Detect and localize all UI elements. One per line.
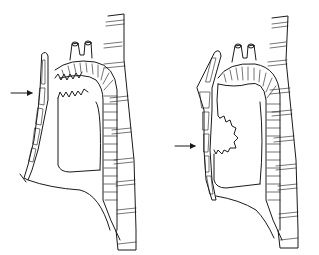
great-vessels [70, 41, 92, 60]
great-vessels [232, 44, 256, 62]
pericardium [28, 102, 110, 230]
lesion-outline [214, 84, 260, 188]
sternum [20, 52, 48, 182]
aorta [55, 61, 120, 240]
pericardium [216, 102, 274, 238]
illustration-panel-right [160, 0, 319, 255]
illustration-panel-left [0, 0, 160, 255]
trachea [268, 16, 298, 248]
anatomy-drawing-left [0, 0, 160, 255]
anatomy-drawing-right [160, 0, 319, 255]
arrow-icon [11, 90, 33, 96]
lesion-outline [55, 72, 100, 172]
arrow-icon [175, 143, 196, 149]
sternum [197, 51, 221, 200]
